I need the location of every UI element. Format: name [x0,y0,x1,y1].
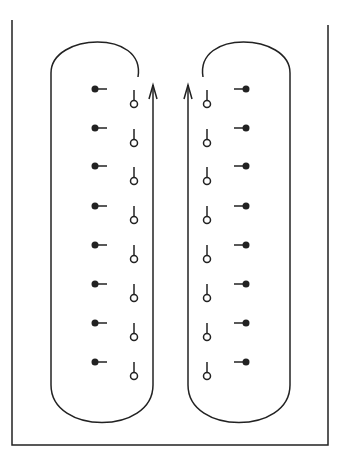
loop-top-arc [203,42,290,77]
open-circle-icon [204,256,211,263]
open-circle-icon [204,140,211,147]
open-circle-icon [131,256,138,263]
filled-dot-icon [243,163,250,170]
filled-dot-icon [92,163,99,170]
filled-dot-icon [92,281,99,288]
open-circle-icon [131,178,138,185]
open-circle-icon [131,334,138,341]
filled-dot-icon [92,203,99,210]
filled-dot-icon [243,242,250,249]
filled-dot-icon [243,86,250,93]
open-circle-icon [131,140,138,147]
open-circle-icon [204,373,211,380]
open-circle-icon [204,101,211,108]
frame-line [12,20,328,445]
open-circle-icon [131,101,138,108]
open-circle-icon [204,334,211,341]
open-circle-icon [204,295,211,302]
filled-dot-icon [243,320,250,327]
filled-dot-icon [92,359,99,366]
loop-bottom-arc [188,385,290,423]
filled-dot-icon [243,203,250,210]
filled-dot-icon [92,86,99,93]
filled-dot-icon [92,320,99,327]
open-circle-icon [131,217,138,224]
loop-diagram [0,0,346,467]
loop-top-arc [51,42,138,77]
open-circle-icon [131,373,138,380]
loop-bottom-arc [51,385,153,423]
open-circle-icon [131,295,138,302]
loops [51,42,290,423]
filled-dot-icon [243,281,250,288]
markers [92,86,250,380]
open-circle-icon [204,217,211,224]
left-loop [51,42,157,423]
open-circle-icon [204,178,211,185]
right-loop [184,42,290,423]
filled-dot-icon [92,125,99,132]
filled-dot-icon [243,125,250,132]
outer-frame [12,20,328,445]
filled-dot-icon [92,242,99,249]
filled-dot-icon [243,359,250,366]
